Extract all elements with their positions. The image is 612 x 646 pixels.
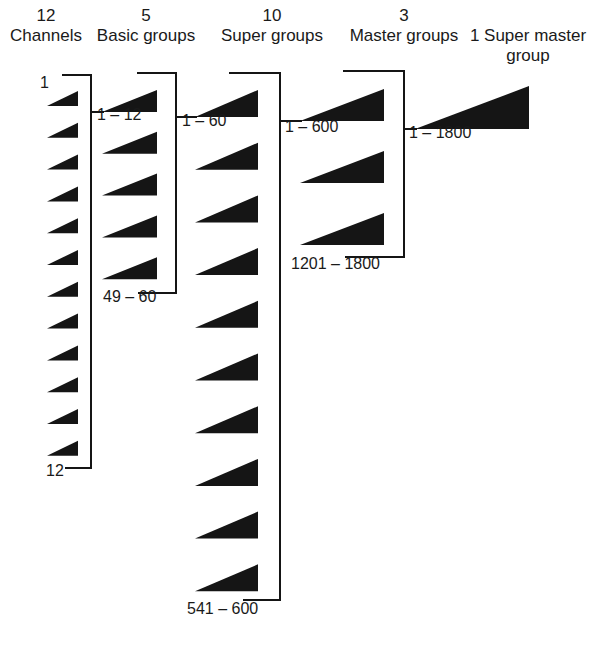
label-master-1201-1800: 1201 – 1800 <box>291 255 380 273</box>
super-groups-wedge-icon <box>195 406 258 433</box>
diagram-canvas <box>0 0 612 646</box>
channels-wedge-icon <box>47 441 78 456</box>
header-super-master-group: 1 Super master group <box>448 26 608 66</box>
channels-wedge-icon <box>47 282 78 297</box>
super-groups-wedge-icon <box>195 248 258 275</box>
super-groups-wedge-icon <box>195 354 258 381</box>
super-groups-wedge-icon <box>195 143 258 170</box>
channels-wedge-icon <box>47 345 78 360</box>
master-groups-wedge-icon <box>300 89 384 121</box>
label-super-1-60: 1 – 60 <box>182 112 226 130</box>
header-name-line2: group <box>448 46 608 66</box>
super-groups-wedge-icon <box>195 301 258 328</box>
channels-wedge-icon <box>47 155 78 170</box>
master-groups-wedge-icon <box>300 151 384 183</box>
channels-wedge-icon <box>47 314 78 329</box>
header-name: 1 Super master <box>448 26 608 46</box>
label-basic-1-12: 1 – 12 <box>97 106 141 124</box>
channels-wedge-icon <box>47 409 78 424</box>
channels-wedge-icon <box>47 123 78 138</box>
label-supermaster-1-1800: 1 – 1800 <box>409 124 471 142</box>
channels-wedge-icon <box>47 186 78 201</box>
label-channel-12: 12 <box>46 462 64 480</box>
channels-wedge-icon <box>47 91 78 106</box>
super-groups-wedge-icon <box>195 512 258 539</box>
channels-wedge-icon <box>47 250 78 265</box>
super-groups-wedge-icon <box>195 564 258 591</box>
channels-wedge-icon <box>47 218 78 233</box>
basic-groups-wedge-icon <box>102 174 157 196</box>
super-groups-wedge-icon <box>195 195 258 222</box>
label-channel-1: 1 <box>40 74 49 92</box>
multiplex-hierarchy-diagram: 12 Channels 5 Basic groups 10 Super grou… <box>0 0 612 646</box>
label-master-1-600: 1 – 600 <box>285 118 338 136</box>
label-basic-49-60: 49 – 60 <box>103 288 156 306</box>
master-groups-wedge-icon <box>300 213 384 245</box>
channels-wedge-icon <box>47 377 78 392</box>
basic-groups-wedge-icon <box>102 257 157 279</box>
header-count: 3 <box>324 6 484 26</box>
label-super-541-600: 541 – 600 <box>187 600 258 618</box>
basic-groups-wedge-icon <box>102 215 157 237</box>
super-groups-wedge-icon <box>195 459 258 486</box>
basic-groups-wedge-icon <box>102 132 157 154</box>
super-master-group-wedge-icon <box>415 86 529 129</box>
